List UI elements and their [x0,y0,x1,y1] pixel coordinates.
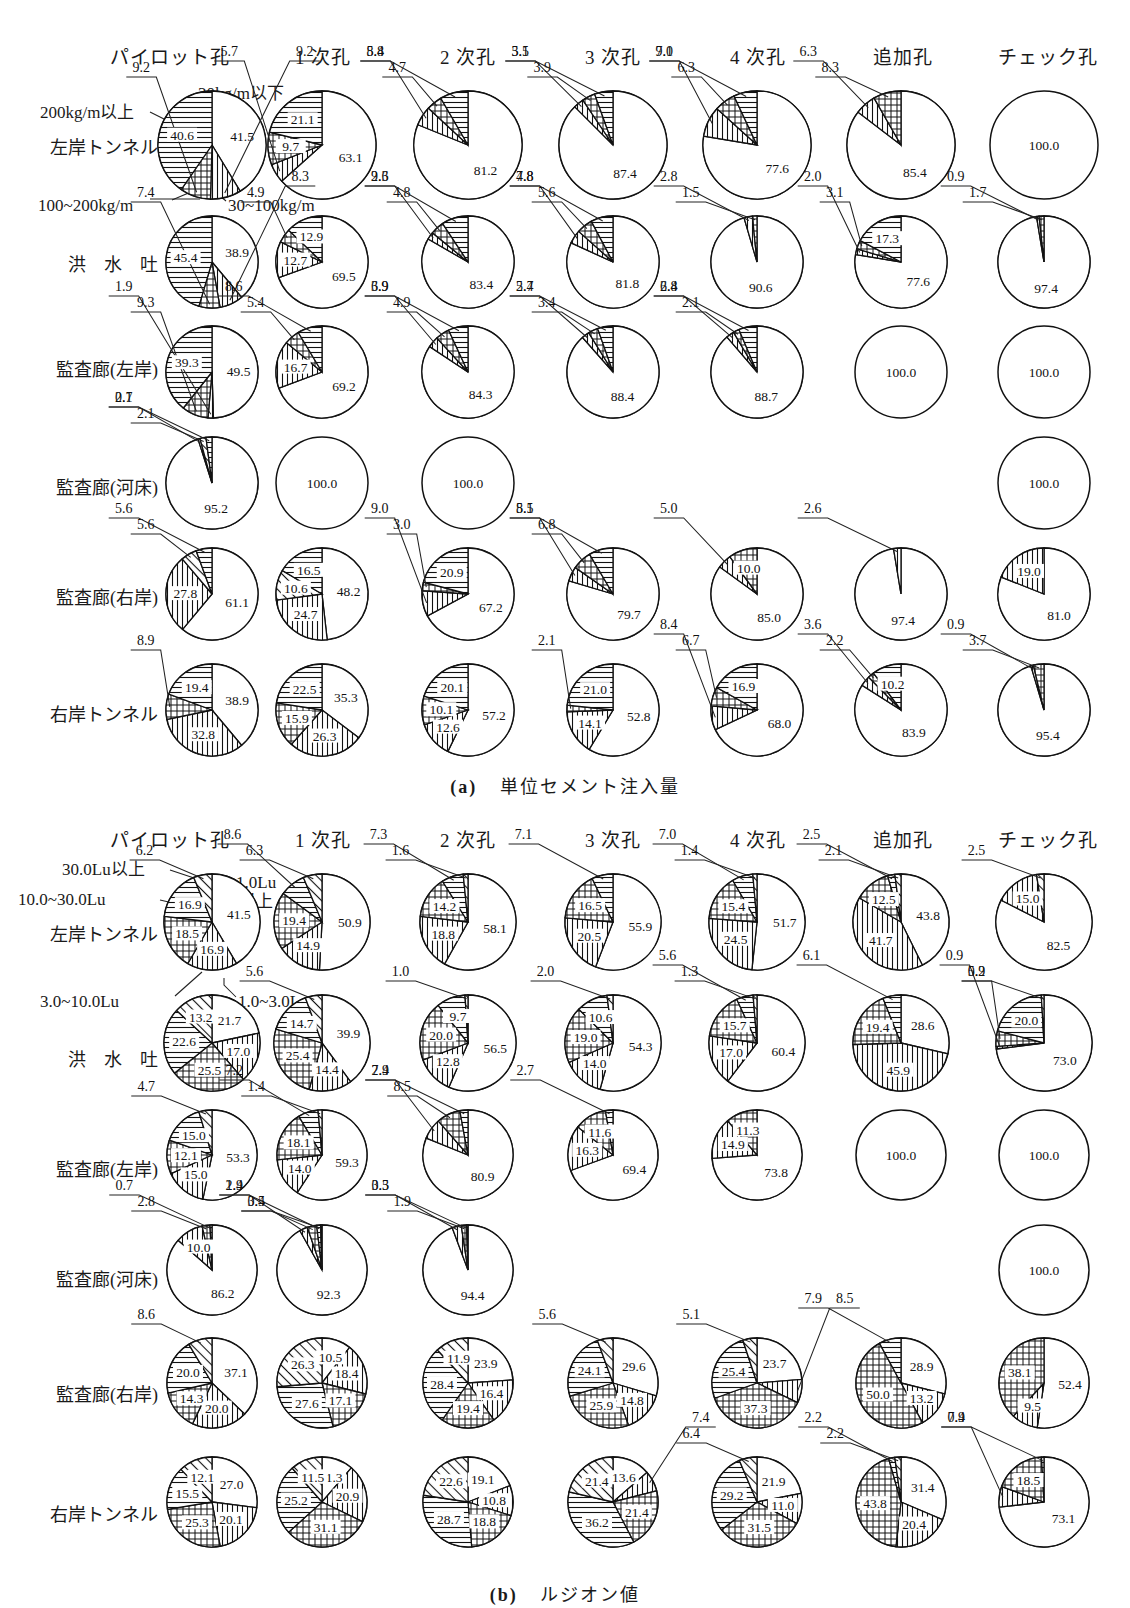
legend-a-leaders [0,0,1130,800]
caption-b: (b) ルジオン値 [0,1580,1130,1606]
caption-a-text: 単位セメント注入量 [500,777,680,797]
panel-unit-cement-injection: パイロット孔 1 次孔 2 次孔 3 次孔 4 次孔 追加孔 チェック孔 左岸ト… [0,0,1130,800]
panel-lugeon-value: パイロット孔 1 次孔 2 次孔 3 次孔 4 次孔 追加孔 チェック孔 左岸ト… [0,800,1130,1608]
caption-a: (a) 単位セメント注入量 [0,772,1130,798]
caption-b-text: ルジオン値 [540,1585,640,1605]
legend-b-leaders [0,800,1130,1608]
caption-a-tag: (a) [450,777,477,797]
caption-b-tag: (b) [490,1585,518,1605]
